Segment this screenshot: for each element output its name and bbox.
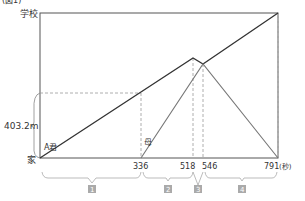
brace-4 <box>205 172 277 181</box>
distance-time-diagram: (図1) 学校 家 403.2m A君 母 336 518 546 791 (秒… <box>0 0 305 201</box>
a-kun-line <box>40 13 278 158</box>
segment-box-4: 4 <box>238 185 246 194</box>
home-label: 家 <box>27 154 36 165</box>
brace-1 <box>42 172 141 183</box>
brace-2 <box>143 172 193 181</box>
segment-box-3: 3 <box>194 185 202 194</box>
school-label: 学校 <box>20 8 38 19</box>
mother-label: 母 <box>144 138 152 147</box>
segment-braces <box>42 172 277 185</box>
svg-text:2: 2 <box>166 186 170 194</box>
graph-frame <box>40 13 278 158</box>
tick-336: 336 <box>133 162 148 171</box>
tick-518: 518 <box>180 162 195 171</box>
a-kun-label: A君 <box>44 143 57 152</box>
header-fragment: (図1) <box>2 0 21 5</box>
segment-box-2: 2 <box>164 185 172 194</box>
svg-text:3: 3 <box>196 186 200 194</box>
svg-text:4: 4 <box>240 186 245 194</box>
svg-text:1: 1 <box>90 186 94 194</box>
x-unit: (秒) <box>279 162 292 171</box>
brace-3 <box>193 172 203 185</box>
distance-label: 403.2m <box>4 121 39 131</box>
tick-546: 546 <box>202 162 217 171</box>
tick-791: 791 <box>264 162 279 171</box>
segment-box-1: 1 <box>88 185 96 194</box>
